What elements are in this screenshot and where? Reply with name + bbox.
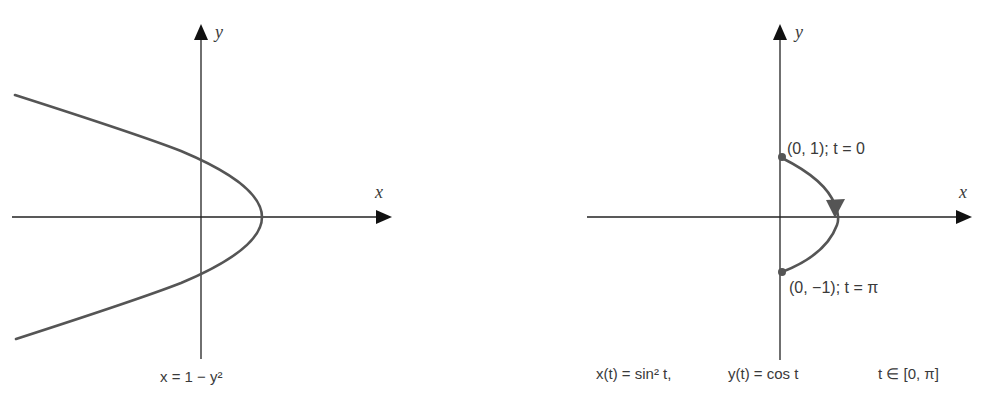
end-point xyxy=(778,268,786,276)
caption-domain: t ∈ [0, π] xyxy=(878,365,939,383)
right-y-axis-arrow-icon xyxy=(773,24,787,40)
right-parametric-curve xyxy=(782,158,838,272)
right-x-axis-label: x xyxy=(959,182,967,203)
right-x-axis-arrow-icon xyxy=(956,210,972,224)
caption-x-equation: x(t) = sin² t, xyxy=(596,365,671,382)
diagram-canvas xyxy=(0,0,994,411)
start-point-label: (0, 1); t = 0 xyxy=(787,140,865,158)
right-y-axis-label: y xyxy=(795,22,803,43)
left-graph xyxy=(12,24,392,359)
left-x-axis-label: x xyxy=(375,182,383,203)
left-caption: x = 1 − y² xyxy=(160,368,223,385)
right-graph xyxy=(587,24,972,360)
left-y-axis-label: y xyxy=(215,22,223,43)
end-point-label: (0, −1); t = π xyxy=(789,279,878,297)
start-point xyxy=(778,153,786,161)
caption-y-equation: y(t) = cos t xyxy=(728,365,798,382)
left-x-axis-arrow-icon xyxy=(376,210,392,224)
left-y-axis-arrow-icon xyxy=(194,24,208,40)
direction-arrow-icon xyxy=(826,199,845,218)
